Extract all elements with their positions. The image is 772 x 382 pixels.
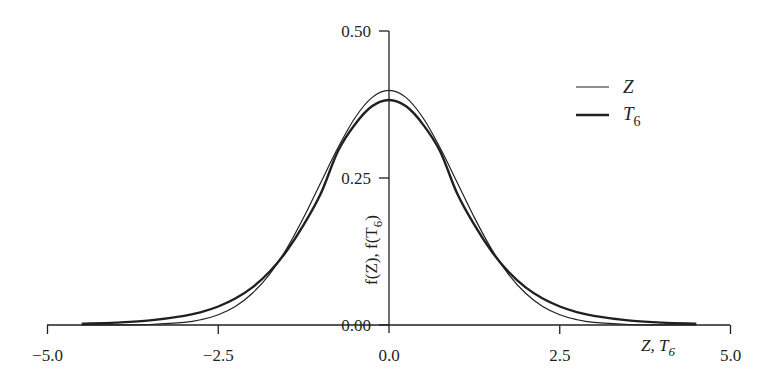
y-tick-label: 0.50 [341,22,371,41]
x-tick-label: 5.0 [720,346,741,365]
y-axis-ticks: 0.000.250.50 [341,22,389,335]
x-tick-label: −5.0 [32,346,63,365]
x-tick-label: 0.0 [378,346,399,365]
y-tick-label: 0.00 [341,316,371,335]
x-axis-ticks: −5.0−2.50.02.55.0 [32,325,741,365]
legend-label-t6: T6 [623,103,641,129]
legend: Z T6 [576,76,641,129]
density-chart: −5.0−2.50.02.55.0 0.000.250.50 Z, T6 f(Z… [0,0,772,382]
y-axis-label: f(Z), f(T6) [362,215,385,285]
x-tick-label: 2.5 [549,346,570,365]
legend-label-z: Z [623,76,634,97]
x-tick-label: −2.5 [203,346,234,365]
y-tick-label: 0.25 [341,169,371,188]
x-axis-label: Z, T6 [641,336,675,359]
